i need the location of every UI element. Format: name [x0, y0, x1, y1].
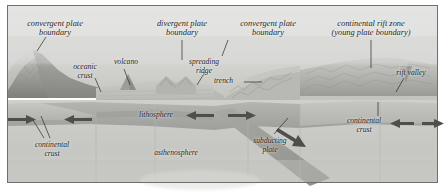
label-trench: trench: [214, 77, 248, 86]
label-line-1: trench: [214, 77, 248, 86]
label-line-2: (young plate boundary): [306, 28, 436, 37]
label-volcano: volcano: [106, 58, 146, 67]
label-line-1: continental rift zone: [306, 19, 436, 28]
label-continental-rift-zone: continental rift zone (young plate bound…: [306, 19, 436, 38]
label-asthenosphere: asthenosphere: [144, 149, 208, 158]
label-line-2: crust: [335, 126, 393, 135]
label-lithosphere: lithosphere: [130, 111, 182, 120]
label-line-1: asthenosphere: [144, 149, 208, 158]
label-line-2: plate: [243, 146, 297, 155]
label-spreading-ridge: spreading ridge: [179, 58, 229, 75]
label-line-2: ridge: [179, 67, 229, 76]
label-line-1: divergent plate: [140, 19, 224, 28]
label-continental-crust-right: continental crust: [335, 117, 393, 134]
label-rift-valley: rift valley: [384, 69, 438, 78]
label-line-1: lithosphere: [130, 111, 182, 120]
label-line-1: rift valley: [384, 69, 438, 78]
label-convergent-plate-boundary-right: convergent plate boundary: [222, 19, 314, 38]
label-oceanic-crust: oceanic crust: [64, 63, 106, 80]
label-convergent-plate-boundary-left: convergent plate boundary: [8, 19, 102, 38]
diagram-stage: convergent plate boundary oceanic crust …: [0, 0, 444, 196]
label-line-2: crust: [22, 150, 82, 159]
label-line-1: convergent plate: [8, 19, 102, 28]
label-line-1: convergent plate: [222, 19, 314, 28]
label-continental-crust-left: continental crust: [22, 141, 82, 158]
label-divergent-plate-boundary: divergent plate boundary: [140, 19, 224, 38]
label-line-1: volcano: [106, 58, 146, 67]
label-line-2: boundary: [8, 28, 102, 37]
label-line-2: crust: [64, 72, 106, 81]
label-subducting-plate: subducting plate: [243, 137, 297, 154]
label-line-2: boundary: [140, 28, 224, 37]
label-line-2: boundary: [222, 28, 314, 37]
